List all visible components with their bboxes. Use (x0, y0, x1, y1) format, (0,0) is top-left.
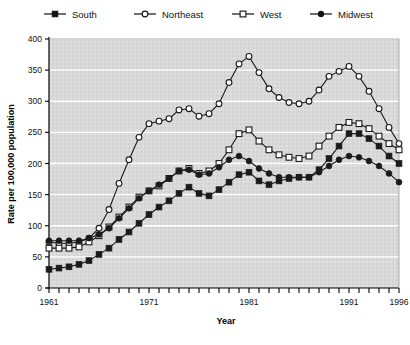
data-marker (366, 136, 372, 142)
legend-item-midwest: Midwest (310, 9, 373, 20)
x-tick-label: 1981 (240, 297, 259, 307)
data-marker (106, 225, 112, 231)
data-marker (86, 235, 92, 241)
data-marker (186, 106, 192, 112)
data-marker (336, 124, 342, 130)
data-marker (236, 172, 242, 178)
data-marker (316, 169, 322, 175)
data-marker (246, 158, 252, 164)
data-marker (116, 237, 122, 243)
data-marker (266, 171, 272, 177)
data-marker (246, 127, 252, 133)
data-marker (176, 107, 182, 113)
data-marker (256, 138, 262, 144)
legend-item-west: West (232, 9, 282, 20)
data-marker (386, 141, 392, 147)
data-marker (246, 169, 252, 175)
data-marker (256, 166, 262, 172)
data-marker (306, 174, 312, 180)
x-tick-label: 1996 (390, 297, 409, 307)
data-marker (286, 100, 292, 106)
data-marker (246, 54, 252, 60)
data-marker (316, 143, 322, 149)
legend-label: South (72, 9, 97, 20)
data-marker (146, 121, 152, 127)
data-marker (226, 147, 232, 153)
x-tick-label: 1991 (340, 297, 359, 307)
data-marker (356, 73, 362, 79)
data-marker (106, 245, 112, 251)
data-marker (326, 73, 332, 79)
data-marker (326, 133, 332, 139)
y-tick-label: 250 (28, 127, 42, 137)
data-marker (240, 11, 246, 17)
data-marker (96, 225, 102, 231)
data-marker (336, 157, 342, 163)
data-marker (196, 172, 202, 178)
y-tick-label: 50 (33, 252, 43, 262)
data-marker (66, 245, 72, 251)
data-marker (366, 126, 372, 132)
data-marker (266, 182, 272, 188)
data-marker (166, 198, 172, 204)
data-marker (176, 168, 182, 174)
data-marker (326, 156, 332, 162)
data-marker (186, 184, 192, 190)
line-chart: SouthNortheastWestMidwest 05010015020025… (0, 0, 410, 345)
data-marker (156, 182, 162, 188)
data-marker (236, 153, 242, 159)
data-marker (136, 195, 142, 201)
data-marker (286, 174, 292, 180)
legend-item-northeast: Northeast (134, 9, 204, 20)
data-marker (226, 80, 232, 86)
y-axis-title: Rate per 100,000 population (6, 104, 16, 224)
data-marker (206, 111, 212, 117)
data-marker (166, 116, 172, 122)
y-tick-label: 200 (28, 159, 42, 169)
data-marker (226, 179, 232, 185)
y-tick-label: 150 (28, 190, 42, 200)
data-marker (96, 232, 102, 238)
data-marker (396, 147, 402, 153)
data-marker (376, 106, 382, 112)
data-marker (76, 244, 82, 250)
data-marker (56, 265, 62, 271)
y-tick-label: 100 (28, 221, 42, 231)
data-marker (116, 181, 122, 187)
data-marker (286, 154, 292, 160)
data-marker (216, 101, 222, 107)
data-marker (126, 157, 132, 163)
data-marker (236, 61, 242, 67)
chart-figure: SouthNortheastWestMidwest 05010015020025… (0, 0, 410, 345)
legend-label: Northeast (162, 9, 204, 20)
data-marker (126, 229, 132, 235)
data-marker (386, 153, 392, 159)
data-marker (86, 258, 92, 264)
data-marker (116, 215, 122, 221)
data-marker (376, 163, 382, 169)
y-tick-label: 400 (28, 34, 42, 44)
data-marker (156, 118, 162, 124)
data-marker (76, 238, 82, 244)
data-marker (316, 87, 322, 93)
data-marker (176, 190, 182, 196)
data-marker (56, 245, 62, 251)
data-marker (146, 188, 152, 194)
data-marker (326, 163, 332, 169)
data-marker (336, 143, 342, 149)
data-marker (346, 63, 352, 69)
data-marker (386, 171, 392, 177)
data-marker (266, 147, 272, 153)
data-marker (296, 101, 302, 107)
data-marker (346, 153, 352, 159)
data-marker (206, 193, 212, 199)
data-marker (346, 131, 352, 137)
legend-label: Midwest (338, 9, 373, 20)
data-marker (276, 152, 282, 158)
data-marker (346, 120, 352, 126)
data-marker (356, 154, 362, 160)
data-marker (336, 68, 342, 74)
data-marker (386, 124, 392, 130)
data-marker (146, 212, 152, 218)
data-marker (366, 158, 372, 164)
